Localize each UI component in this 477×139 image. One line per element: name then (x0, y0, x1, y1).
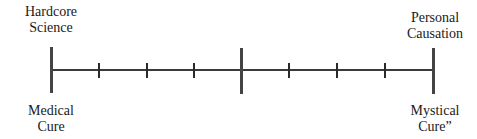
label-line: Causation (398, 26, 472, 42)
label-personal-causation: Personal Causation (398, 10, 472, 42)
label-line: Medical (18, 103, 84, 119)
label-line: Cure” (398, 119, 472, 135)
tick-mark (384, 63, 386, 78)
label-line: Science (18, 20, 84, 36)
label-line: Cure (18, 119, 84, 135)
anchor-right (432, 48, 435, 94)
anchor-center (240, 48, 243, 94)
label-line: Mystical (398, 103, 472, 119)
label-line: Personal (398, 10, 472, 26)
label-line: Hardcore (18, 4, 84, 20)
tick-mark (336, 63, 338, 78)
tick-mark (98, 63, 100, 78)
tick-mark (193, 63, 195, 78)
tick-mark (288, 63, 290, 78)
tick-mark (146, 63, 148, 78)
label-medical-cure: Medical Cure (18, 103, 84, 135)
continuum-axis (52, 69, 434, 71)
label-mystical-cure: Mystical Cure” (398, 103, 472, 135)
label-hardcore-science: Hardcore Science (18, 4, 84, 36)
anchor-left (50, 47, 53, 93)
